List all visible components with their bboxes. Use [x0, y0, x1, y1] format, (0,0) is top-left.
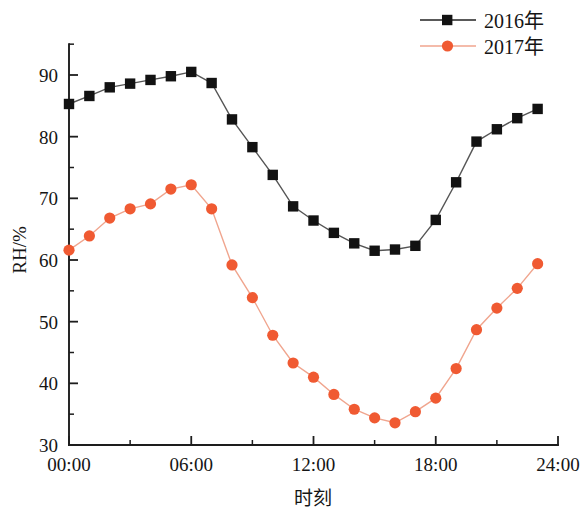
y-axis-tick-label: 50 [39, 312, 58, 333]
x-axis-tick-label: 06:00 [170, 454, 213, 475]
data-point [471, 324, 482, 335]
data-point [389, 417, 400, 428]
data-point [410, 241, 420, 251]
series-line [69, 72, 538, 251]
legend-entry-2016[interactable]: 2016年 [420, 10, 544, 32]
y-axis-title: RH/% [9, 226, 30, 274]
data-point [328, 389, 339, 400]
x-axis-tick-label: 12:00 [292, 454, 335, 475]
data-point [349, 238, 359, 248]
data-point [308, 372, 319, 383]
data-point [308, 215, 318, 225]
data-point [451, 177, 461, 187]
series-line [69, 185, 538, 423]
y-axis-tick-labels: 30405060708090 [39, 65, 58, 456]
data-point [390, 244, 400, 254]
series-2017 [63, 179, 543, 428]
data-point [369, 246, 379, 256]
chart-legend: 2016年2017年 [420, 10, 544, 58]
y-axis-tick-label: 80 [39, 127, 58, 148]
legend-circle-marker-icon [442, 40, 453, 51]
x-axis-tick-label: 24:00 [536, 454, 579, 475]
data-point [471, 136, 481, 146]
y-axis-tick-label: 60 [39, 250, 58, 271]
data-point [186, 67, 196, 77]
legend-square-marker-icon [442, 15, 452, 25]
data-point [512, 113, 522, 123]
data-point [532, 258, 543, 269]
chart-container: 00:0006:0012:0018:0024:00 30405060708090… [0, 0, 586, 519]
data-point [329, 228, 339, 238]
data-point [186, 179, 197, 190]
data-point [84, 91, 94, 101]
data-point [226, 259, 237, 270]
data-point [145, 198, 156, 209]
data-point [267, 330, 278, 341]
x-axis-title: 时刻 [294, 488, 332, 509]
data-point [227, 114, 237, 124]
data-point [369, 412, 380, 423]
y-axis-tick-label: 70 [39, 188, 58, 209]
data-point [431, 215, 441, 225]
data-point [145, 75, 155, 85]
data-point [125, 203, 136, 214]
data-point [125, 78, 135, 88]
data-point [349, 404, 360, 415]
data-point [247, 292, 258, 303]
data-point [268, 170, 278, 180]
data-point [64, 99, 74, 109]
legend-label: 2016年 [484, 10, 544, 32]
data-point [451, 363, 462, 374]
data-point [206, 78, 216, 88]
series-2016 [64, 67, 543, 256]
data-point [410, 406, 421, 417]
data-point [166, 71, 176, 81]
x-axis-tick-labels: 00:0006:0012:0018:0024:00 [47, 454, 579, 475]
data-point [84, 230, 95, 241]
data-point [206, 203, 217, 214]
chart-series [63, 67, 543, 429]
data-point [105, 82, 115, 92]
data-point [288, 357, 299, 368]
x-axis-tick-label: 00:00 [47, 454, 90, 475]
y-axis-tick-label: 40 [39, 373, 58, 394]
y-axis-tick-label: 90 [39, 65, 58, 86]
chart-axes [69, 44, 558, 445]
data-point [532, 104, 542, 114]
data-point [288, 201, 298, 211]
x-axis-tick-label: 18:00 [414, 454, 457, 475]
data-point [430, 393, 441, 404]
data-point [104, 212, 115, 223]
data-point [165, 183, 176, 194]
data-point [247, 142, 257, 152]
y-axis-tick-label: 30 [39, 435, 58, 456]
line-chart: 00:0006:0012:0018:0024:00 30405060708090… [0, 0, 586, 519]
data-point [512, 283, 523, 294]
legend-label: 2017年 [484, 36, 544, 58]
data-point [492, 124, 502, 134]
data-point [63, 245, 74, 256]
data-point [491, 303, 502, 314]
legend-entry-2017[interactable]: 2017年 [420, 36, 544, 58]
